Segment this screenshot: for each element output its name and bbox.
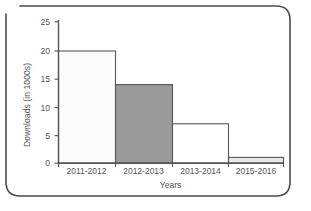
bar-2011-2012[interactable] bbox=[59, 51, 116, 163]
bars-group bbox=[59, 51, 284, 163]
x-tick-label-2012-2013: 2012-2013 bbox=[115, 166, 172, 176]
bar-2015-2016[interactable] bbox=[229, 157, 284, 163]
y-tick-label-25: 25 bbox=[28, 18, 50, 26]
bar-2012-2013[interactable] bbox=[116, 85, 173, 163]
x-tick-label-2011-2012: 2011-2012 bbox=[58, 166, 115, 176]
bar-2013-2014[interactable] bbox=[173, 124, 229, 163]
figure-root: 25 20 15 10 5 0 2011-2012 2012-2013 2013… bbox=[0, 0, 311, 211]
x-axis-title: Years bbox=[58, 180, 283, 190]
x-tick-label-2013-2014: 2013-2014 bbox=[172, 166, 229, 176]
y-axis-title: Downloads (in 1000s) bbox=[22, 45, 32, 165]
x-tick-label-2015-2016: 2015-2016 bbox=[228, 166, 284, 176]
